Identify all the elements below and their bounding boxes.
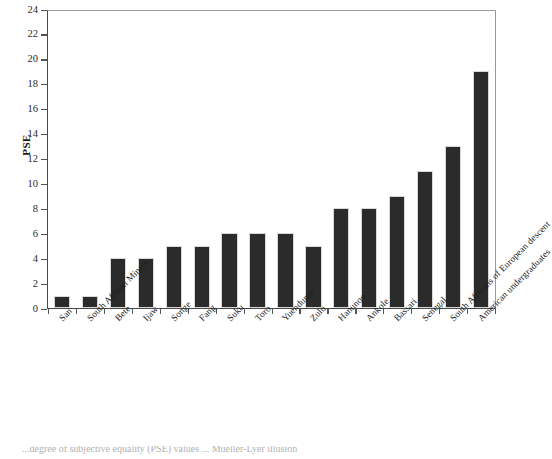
bars-group [48,10,495,308]
bar [445,146,461,308]
bar [277,233,293,308]
y-tick-label: 6 [33,227,38,241]
y-tick-label: 4 [33,252,38,266]
figure-caption: ...degree of subjective equality (PSE) v… [0,446,502,459]
bar [473,71,489,308]
bar [221,233,237,308]
y-tick-label: 12 [28,152,39,166]
y-tick-label: 24 [28,3,39,17]
bar [249,233,265,308]
bar [333,208,349,308]
x-tick-mark [160,309,161,314]
x-tick-mark [48,309,49,314]
y-tick-label: 14 [28,127,39,141]
y-tick-label: 10 [28,177,39,191]
bar [417,171,433,308]
y-tick-label: 20 [28,52,39,66]
y-tick-label: 22 [28,27,39,41]
figure-caption-text: ...degree of subjective equality (PSE) v… [22,446,297,454]
y-tick-label: 18 [28,77,39,91]
bar [389,196,405,308]
bar [361,208,377,308]
y-tick-label: 0 [33,302,38,316]
x-tick-mark [76,309,77,314]
y-tick-label: 8 [33,202,38,216]
y-tick-label: 2 [33,277,38,291]
bar [194,246,210,308]
y-axis-title: PSE [20,115,32,175]
y-tick-label: 16 [28,102,39,116]
bar [166,246,182,308]
